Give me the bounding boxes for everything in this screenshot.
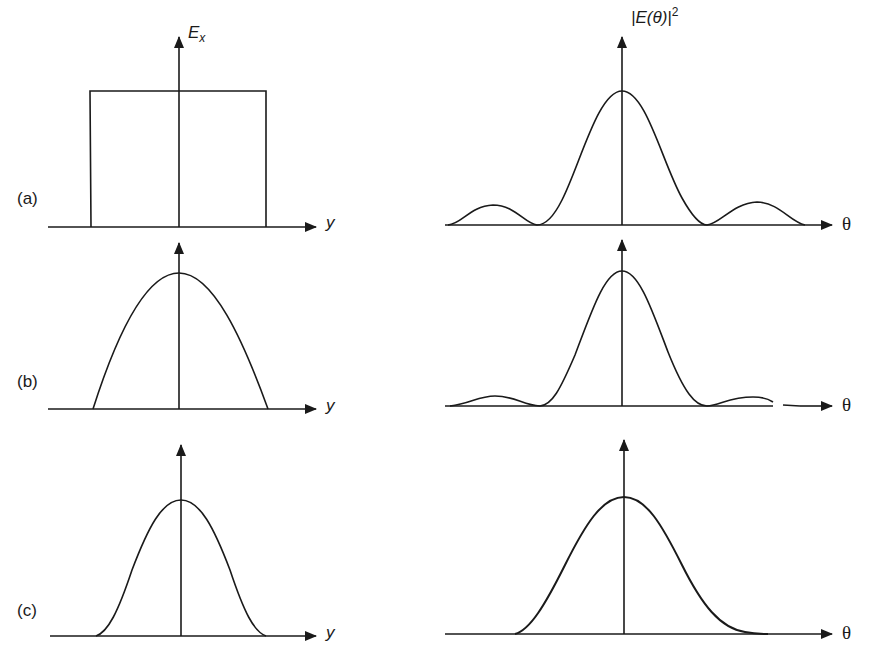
aperture-distribution-figure: Ex |E(θ)|2 (a) (b) (c) y y y θ θ θ [0, 0, 878, 660]
y-axis-label-a: y [326, 214, 335, 231]
panel-label-c: (c) [17, 602, 37, 619]
uniform-field-curve [90, 91, 266, 227]
panel-a-aperture [48, 37, 316, 227]
cosine-field-curve [93, 273, 268, 409]
pattern-axis-label: |E(θ)|2 [631, 6, 678, 26]
y-axis-label-c: y [326, 624, 335, 641]
y-axis-label-b: y [326, 397, 335, 414]
figure-canvas [0, 0, 878, 660]
panel-label-a: (a) [17, 190, 38, 207]
theta-axis-label-c: θ [842, 623, 851, 642]
panel-c-pattern [445, 440, 832, 634]
theta-axis-label-b: θ [842, 395, 851, 414]
panel-b-pattern [445, 240, 832, 406]
theta-axis-label-a: θ [842, 214, 851, 233]
sinc-squared-pattern-curve [448, 91, 805, 225]
gaussian-pattern-curve [515, 497, 768, 634]
panel-c-aperture [50, 445, 316, 636]
panel-a-pattern [445, 37, 832, 225]
panel-label-b: (b) [17, 373, 38, 390]
ex-axis-label: Ex [188, 24, 205, 44]
tapered-pattern-curve [450, 271, 773, 406]
panel-b-aperture [48, 243, 316, 409]
